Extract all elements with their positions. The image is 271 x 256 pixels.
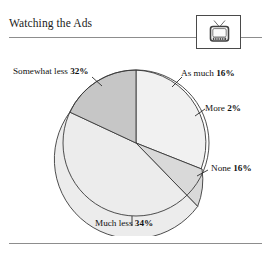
pie-label-more-text: More — [205, 103, 227, 113]
pie-chart: Somewhat less 32% As much 16% More 2% No… — [0, 46, 271, 236]
page-title: Watching the Ads — [9, 17, 92, 29]
pie-label-somewhat-less-text: Somewhat less — [13, 66, 70, 76]
pie-label-more-value: 2% — [227, 103, 241, 113]
pie-label-as-much: As much 16% — [181, 68, 235, 78]
television-icon — [197, 16, 242, 50]
pie-label-as-much-value: 16% — [216, 68, 234, 78]
pie-label-none-text: None — [211, 163, 233, 173]
figure-watching-the-ads: Watching the Ads — [0, 0, 271, 256]
pie-label-much-less: Much less 34% — [95, 218, 153, 228]
pie-label-none-value: 16% — [233, 163, 251, 173]
pie-label-much-less-value: 34% — [135, 218, 153, 228]
pie-label-somewhat-less-value: 32% — [70, 66, 88, 76]
pie-label-somewhat-less: Somewhat less 32% — [13, 66, 89, 76]
footer-divider — [9, 243, 262, 244]
figure-header: Watching the Ads — [0, 8, 271, 46]
television-icon-frame — [196, 15, 241, 49]
pie-label-much-less-text: Much less — [95, 218, 135, 228]
pie-label-more: More 2% — [205, 103, 241, 113]
pie-label-as-much-text: As much — [181, 68, 216, 78]
pie-label-none: None 16% — [211, 163, 252, 173]
